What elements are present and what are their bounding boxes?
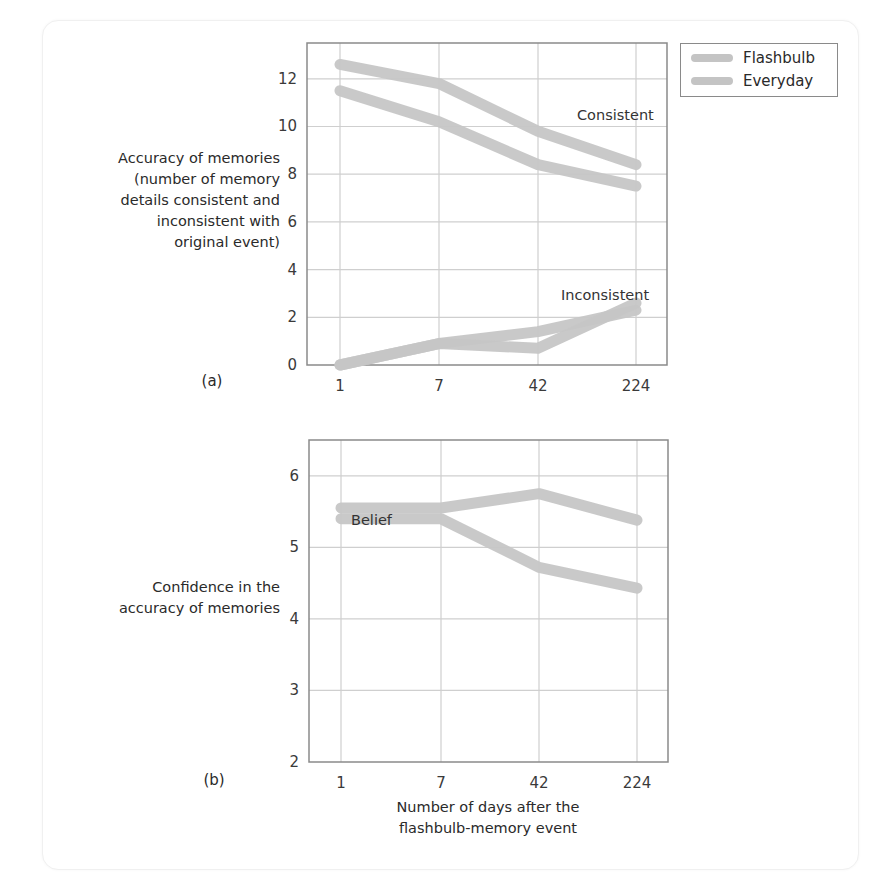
legend-label: Everyday [743, 72, 813, 90]
x-tick-label: 1 [335, 377, 345, 395]
y-tick-label: 10 [278, 117, 297, 135]
y-tick-label: 4 [287, 261, 297, 279]
y-tick-label: 8 [287, 165, 297, 183]
y-tick-label: 4 [289, 610, 299, 628]
legend-item-flashbulb: Flashbulb [691, 46, 815, 70]
y-tick-label: 6 [287, 213, 297, 231]
everyday-swatch-icon [691, 77, 733, 85]
x-tick-label: 224 [623, 774, 652, 792]
panel-label: (b) [203, 771, 224, 789]
y-axis-label: original event) [174, 234, 280, 250]
y-tick-label: 12 [278, 70, 297, 88]
y-axis-label: inconsistent with [157, 213, 280, 229]
legend-item-everyday: Everyday [691, 69, 813, 93]
x-tick-label: 42 [529, 774, 548, 792]
y-axis-label: Accuracy of memories [118, 150, 280, 166]
chart-panel-b: 234561742224Confidence in theaccuracy of… [119, 440, 668, 836]
figure: 0246810121742224Accuracy of memories(num… [0, 0, 887, 895]
y-axis-label: (number of memory [134, 171, 280, 187]
series-annotation: Belief [351, 512, 393, 528]
y-tick-label: 0 [287, 356, 297, 374]
y-axis-label: details consistent and [121, 192, 280, 208]
x-tick-label: 1 [336, 774, 346, 792]
x-axis-label: Number of days after the [397, 799, 580, 815]
y-axis-label: accuracy of memories [119, 600, 280, 616]
panel-label: (a) [202, 372, 223, 390]
y-tick-label: 5 [289, 538, 299, 556]
x-tick-label: 7 [434, 377, 444, 395]
series-annotation: Inconsistent [561, 287, 649, 303]
legend: Flashbulb Everyday [680, 43, 838, 97]
x-tick-label: 42 [528, 377, 547, 395]
y-tick-label: 2 [287, 308, 297, 326]
y-tick-label: 3 [289, 681, 299, 699]
series-line [341, 519, 637, 588]
legend-label: Flashbulb [743, 49, 815, 67]
x-tick-label: 7 [436, 774, 446, 792]
y-tick-label: 6 [289, 467, 299, 485]
chart-panel-a: 0246810121742224Accuracy of memories(num… [118, 43, 667, 395]
x-tick-label: 224 [622, 377, 651, 395]
y-axis-label: Confidence in the [152, 579, 280, 595]
plot-frame [309, 440, 668, 762]
y-tick-label: 2 [289, 753, 299, 771]
flashbulb-swatch-icon [691, 54, 733, 62]
series-annotation: Consistent [577, 107, 654, 123]
x-axis-label: flashbulb-memory event [399, 820, 577, 836]
